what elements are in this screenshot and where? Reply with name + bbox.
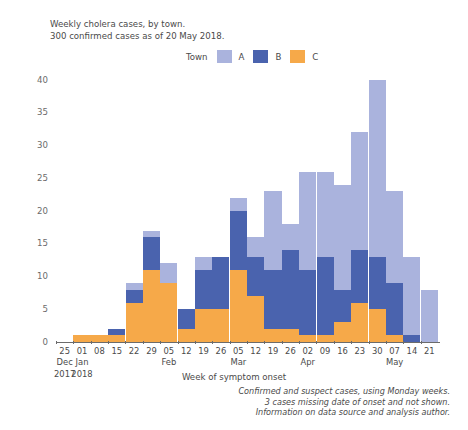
bar-column[interactable] bbox=[369, 80, 386, 342]
bar-segment-b bbox=[282, 250, 299, 329]
bar-segment-c bbox=[178, 329, 195, 342]
bar-column[interactable] bbox=[178, 309, 195, 342]
x-tick-mark bbox=[230, 341, 231, 344]
bar-segment-c bbox=[212, 309, 229, 342]
bar-segment-a bbox=[403, 257, 420, 336]
bar-segment-a bbox=[369, 80, 386, 257]
y-tick-label: 5 bbox=[26, 304, 48, 314]
bar-segment-b bbox=[317, 257, 334, 336]
x-month-label: May bbox=[381, 357, 409, 367]
bar-segment-b bbox=[212, 257, 229, 309]
bar-column[interactable] bbox=[195, 257, 212, 342]
bar-column[interactable] bbox=[212, 257, 229, 342]
footnotes: Confirmed and suspect cases, using Monda… bbox=[238, 386, 450, 418]
bar-series-group bbox=[56, 80, 438, 342]
bar-segment-b bbox=[143, 237, 160, 270]
chart-subtitle: 300 confirmed cases as of 20 May 2018. bbox=[50, 30, 224, 42]
bar-segment-b bbox=[108, 329, 125, 336]
bar-segment-a bbox=[126, 283, 143, 290]
bar-segment-c bbox=[247, 296, 264, 342]
y-tick-label: 10 bbox=[26, 271, 48, 281]
bar-column[interactable] bbox=[126, 283, 143, 342]
bar-segment-c bbox=[351, 303, 368, 342]
chart-title: Weekly cholera cases, by town. bbox=[50, 18, 224, 30]
x-tick-mark bbox=[282, 341, 283, 344]
bar-segment-a bbox=[317, 172, 334, 257]
bar-segment-b bbox=[195, 270, 212, 309]
legend-swatch-b bbox=[253, 50, 268, 63]
y-tick-label: 30 bbox=[26, 140, 48, 150]
bar-column[interactable] bbox=[230, 198, 247, 342]
bar-column[interactable] bbox=[264, 191, 281, 342]
chart-page: Weekly cholera cases, by town. 300 confi… bbox=[0, 0, 468, 430]
bar-segment-c bbox=[230, 270, 247, 342]
x-tick-mark bbox=[195, 341, 196, 344]
x-tick-mark bbox=[160, 341, 161, 344]
x-tick-mark bbox=[316, 341, 317, 344]
bar-segment-c bbox=[195, 309, 212, 342]
legend-swatch-a bbox=[217, 50, 232, 63]
x-tick-mark bbox=[334, 341, 335, 344]
footnote-1: Confirmed and suspect cases, using Monda… bbox=[238, 386, 450, 397]
bar-segment-c bbox=[334, 322, 351, 342]
bar-segment-a bbox=[386, 191, 403, 283]
bar-column[interactable] bbox=[351, 132, 368, 342]
y-tick-label: 40 bbox=[26, 75, 48, 85]
y-tick-label: 0 bbox=[26, 337, 48, 347]
x-axis-title: Week of symptom onset bbox=[0, 372, 468, 382]
x-tick-mark bbox=[386, 341, 387, 344]
x-tick-mark bbox=[369, 341, 370, 344]
legend-item-b[interactable]: B bbox=[253, 50, 281, 63]
bar-segment-a bbox=[264, 191, 281, 270]
footnote-2: 3 cases missing date of onset and not sh… bbox=[238, 397, 450, 408]
bar-column[interactable] bbox=[247, 237, 264, 342]
bar-segment-c bbox=[264, 329, 281, 342]
bar-column[interactable] bbox=[334, 185, 351, 342]
bar-segment-b bbox=[230, 211, 247, 270]
x-tick-mark bbox=[125, 341, 126, 344]
bar-segment-a bbox=[230, 198, 247, 211]
bar-column[interactable] bbox=[282, 224, 299, 342]
x-tick-mark bbox=[108, 341, 109, 344]
bar-column[interactable] bbox=[299, 172, 316, 342]
bar-column[interactable] bbox=[143, 231, 160, 342]
bar-segment-b bbox=[369, 257, 386, 309]
bar-segment-c bbox=[282, 329, 299, 342]
bar-segment-b bbox=[386, 283, 403, 335]
bar-segment-b bbox=[126, 290, 143, 303]
chart-titles: Weekly cholera cases, by town. 300 confi… bbox=[50, 18, 224, 42]
bar-segment-b bbox=[299, 270, 316, 336]
bar-segment-a bbox=[282, 224, 299, 250]
x-tick-mark bbox=[264, 341, 265, 344]
bar-segment-b bbox=[334, 290, 351, 323]
bar-segment-b bbox=[264, 270, 281, 329]
bar-segment-c bbox=[369, 309, 386, 342]
legend-swatch-c bbox=[290, 50, 305, 63]
legend-item-c[interactable]: C bbox=[290, 50, 318, 63]
legend-title: Town bbox=[186, 52, 208, 62]
y-tick-label: 25 bbox=[26, 173, 48, 183]
legend-item-a[interactable]: A bbox=[217, 50, 245, 63]
bar-segment-a bbox=[351, 132, 368, 250]
bar-column[interactable] bbox=[160, 263, 177, 342]
plot-area bbox=[56, 80, 438, 342]
bar-column[interactable] bbox=[403, 257, 420, 342]
bar-segment-c bbox=[160, 283, 177, 342]
x-month-label: Apr bbox=[294, 357, 322, 367]
bar-column[interactable] bbox=[386, 191, 403, 342]
bar-segment-b bbox=[247, 257, 264, 296]
footnote-3: Information on data source and analysis … bbox=[238, 407, 450, 418]
bar-segment-b bbox=[351, 250, 368, 302]
bar-column[interactable] bbox=[108, 329, 125, 342]
bar-segment-a bbox=[160, 263, 177, 283]
x-month-label: Jan bbox=[68, 357, 96, 367]
bar-column[interactable] bbox=[317, 172, 334, 342]
bar-column[interactable] bbox=[421, 290, 438, 342]
bar-segment-a bbox=[143, 231, 160, 238]
legend-label-a: A bbox=[239, 52, 245, 62]
x-tick-mark bbox=[247, 341, 248, 344]
legend-label-c: C bbox=[312, 52, 318, 62]
x-axis-line bbox=[56, 342, 440, 343]
x-tick-mark bbox=[56, 341, 57, 344]
y-tick-label: 15 bbox=[26, 238, 48, 248]
